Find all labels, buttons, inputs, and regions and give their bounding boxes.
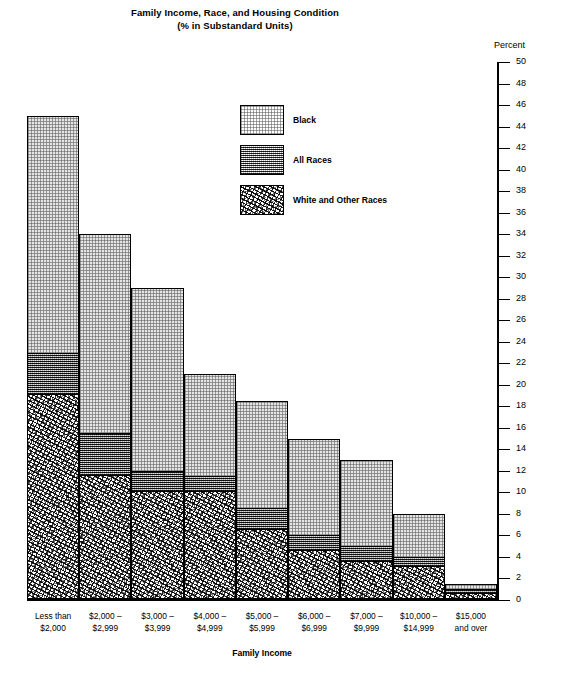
x-axis-title: Family Income: [27, 648, 497, 658]
y-axis-tick-label: 22: [516, 358, 526, 367]
legend-swatch-white_other: [240, 185, 284, 215]
x-axis-label-line2: $5,999: [236, 623, 288, 635]
bar-segment-all-races: [289, 535, 339, 551]
x-axis-label-3: $3,000 –$3,999: [131, 611, 183, 634]
legend-swatch-black: [240, 105, 284, 135]
page-title: Family Income, Race, and Housing Conditi…: [0, 6, 470, 32]
y-axis-tick-label: 12: [516, 466, 526, 475]
y-axis-tick: [499, 256, 510, 257]
y-axis-tick: [499, 449, 510, 450]
bar-segment-all-races: [132, 471, 182, 492]
legend-item-all_races: All Races: [240, 140, 470, 180]
chart-title-line2: (% in Substandard Units): [0, 19, 470, 32]
bar-segment-white-and-other-races: [341, 562, 391, 599]
x-axis-label-line2: $2,000: [27, 623, 79, 635]
y-axis-tick-label: 36: [516, 208, 526, 217]
y-axis-tick: [499, 385, 510, 386]
y-axis-tick-label: 4: [516, 552, 521, 561]
y-axis-tick-label: 42: [516, 143, 526, 152]
bar-2: [79, 234, 131, 600]
x-axis-label-line2: $3,999: [131, 623, 183, 635]
bar-segment-all-races: [237, 508, 287, 529]
y-axis-tick-label: 50: [516, 57, 526, 66]
bar-8: [393, 514, 445, 600]
legend-label-white_other: White and Other Races: [293, 195, 387, 205]
bar-segment-white-and-other-races: [185, 492, 235, 599]
legend-label-black: Black: [293, 115, 316, 125]
legend-item-white_other: White and Other Races: [240, 180, 470, 220]
bar-1: [27, 116, 79, 600]
y-axis-tick: [499, 600, 510, 601]
y-axis-tick: [499, 492, 510, 493]
bar-segment-black: [237, 402, 287, 509]
bar-segment-white-and-other-races: [394, 567, 444, 599]
x-axis-label-8: $10,000 –$14,999: [393, 611, 445, 634]
bar-segment-all-races: [185, 476, 235, 492]
x-axis-label-line1: $4,000 –: [193, 611, 226, 621]
y-axis-tick: [499, 170, 510, 171]
bar-segment-all-races: [28, 353, 78, 396]
y-axis-unit-caption: Percent: [494, 40, 525, 50]
bar-segment-black: [80, 235, 130, 433]
legend-swatch-all_races: [240, 145, 284, 175]
x-axis-label-line1: $2,000 –: [89, 611, 122, 621]
x-axis-label-line2: $2,999: [79, 623, 131, 635]
bar-segment-white-and-other-races: [132, 492, 182, 599]
y-axis-tick-label: 30: [516, 272, 526, 281]
bar-segment-black: [132, 289, 182, 471]
y-axis-tick-label: 18: [516, 401, 526, 410]
bar-segment-white-and-other-races: [237, 530, 287, 599]
x-axis-label-line1: $10,000 –: [400, 611, 437, 621]
chart-title-line1: Family Income, Race, and Housing Conditi…: [131, 7, 339, 18]
legend-label-all_races: All Races: [293, 155, 332, 165]
y-axis-tick: [499, 191, 510, 192]
x-axis-label-line2: $9,999: [340, 623, 392, 635]
y-axis-tick: [499, 471, 510, 472]
x-axis-label-line2: and over: [445, 623, 497, 635]
y-axis-tick: [499, 406, 510, 407]
bar-segment-black: [394, 515, 444, 557]
y-axis-tick: [499, 148, 510, 149]
bar-6: [288, 439, 340, 600]
bar-segment-black: [185, 375, 235, 476]
chart-legend: BlackAll RacesWhite and Other Races: [240, 100, 470, 220]
y-axis-tick-label: 48: [516, 79, 526, 88]
x-axis-label-line1: $6,000 –: [298, 611, 331, 621]
x-axis-label-9: $15,000and over: [445, 611, 497, 634]
x-axis-label-4: $4,000 –$4,999: [184, 611, 236, 634]
x-axis-label-line1: $15,000: [456, 611, 486, 621]
x-axis-label-line2: $14,999: [393, 623, 445, 635]
y-axis-tick: [499, 514, 510, 515]
x-axis-label-7: $7,000 –$9,999: [340, 611, 392, 634]
y-axis-tick-label: 14: [516, 444, 526, 453]
y-axis-tick: [499, 127, 510, 128]
x-axis-label-line1: $3,000 –: [141, 611, 174, 621]
y-axis-line: [497, 62, 499, 601]
bar-segment-all-races: [394, 557, 444, 568]
bar-segment-black: [28, 117, 78, 353]
bar-segment-white-and-other-races: [289, 551, 339, 599]
y-axis-tick-label: 8: [516, 509, 521, 518]
y-axis-tick-label: 16: [516, 423, 526, 432]
bar-segment-white-and-other-races: [80, 476, 130, 599]
bar-segment-black: [341, 461, 391, 546]
x-axis-label-1: Less than$2,000: [27, 611, 79, 634]
y-axis-tick: [499, 62, 510, 63]
x-axis-label-line1: $7,000 –: [350, 611, 383, 621]
y-axis-tick: [499, 342, 510, 343]
y-axis-tick-label: 10: [516, 487, 526, 496]
y-axis-tick-label: 0: [516, 595, 521, 604]
bar-5: [236, 401, 288, 600]
x-axis-baseline: [27, 598, 497, 601]
y-axis-tick-label: 34: [516, 229, 526, 238]
y-axis-tick-label: 32: [516, 251, 526, 260]
y-axis-tick: [499, 84, 510, 85]
y-axis-tick: [499, 363, 510, 364]
x-axis-label-5: $5,000 –$5,999: [236, 611, 288, 634]
x-axis-label-line2: $4,999: [184, 623, 236, 635]
y-axis-tick-label: 26: [516, 315, 526, 324]
x-axis-label-line2: $6,999: [288, 623, 340, 635]
y-axis-tick: [499, 299, 510, 300]
y-axis-tick: [499, 428, 510, 429]
y-axis-tick-label: 44: [516, 122, 526, 131]
